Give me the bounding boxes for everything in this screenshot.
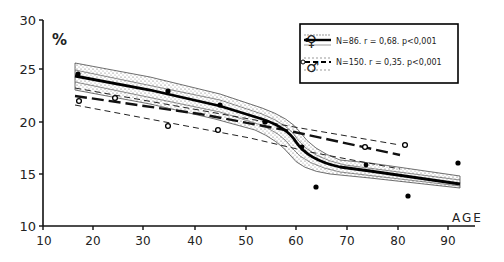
x-tick-label: 80 [390,234,405,248]
y-axis: 30 25 20 15 10 % [19,13,67,234]
legend: ♀ N=86. r = 0,68. p<0,001 ♂ N=150. r = 0… [300,24,458,83]
female-legend-label: N=86. r = 0,68. p<0,001 [336,37,437,46]
x-tick-label: 10 [36,234,51,248]
x-tick-label: 70 [339,234,354,248]
x-tick-label: 60 [288,234,303,248]
x-axis-label: AGE [452,211,483,225]
age-percentage-chart: 30 25 20 15 10 % 10 20 30 40 50 60 70 80… [0,0,504,262]
y-tick-label: 30 [19,13,36,28]
male-symbol: ♂ [306,58,319,76]
x-tick-label: 20 [85,234,100,248]
y-tick-label: 20 [19,115,36,130]
y-tick-label: 25 [19,62,36,77]
x-tick-label: 30 [135,234,150,248]
male-legend-label: N=150. r = 0,35. p<0,001 [336,58,442,67]
x-tick-label: 50 [238,234,253,248]
y-axis-unit: % [52,31,67,49]
y-tick-label: 10 [19,219,36,234]
x-axis: 10 20 30 40 50 60 70 80 90 AGE [36,211,483,248]
x-tick-label: 40 [187,234,202,248]
x-tick-label: 90 [440,234,455,248]
y-tick-label: 15 [19,167,36,182]
